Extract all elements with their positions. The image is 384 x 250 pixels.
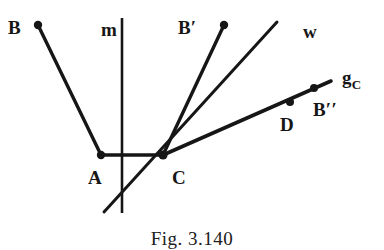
point-a-dot (97, 151, 105, 159)
label-c: C (172, 168, 186, 187)
label-g-c-subscript: C (352, 77, 362, 92)
label-m: m (101, 20, 117, 39)
point-c-dot (158, 150, 167, 159)
label-d: D (280, 115, 294, 134)
label-a: A (88, 168, 102, 187)
point-b-dot (34, 21, 42, 29)
point-b-prime-dot (220, 21, 228, 29)
label-b: B (8, 18, 21, 37)
label-b-double-prime: B′′ (313, 100, 337, 119)
point-d-dot (286, 98, 294, 106)
label-b-prime: B′ (178, 18, 196, 37)
label-g-c: gC (342, 68, 361, 91)
label-g-c-base: g (342, 67, 352, 88)
label-w: w (303, 22, 317, 41)
figure-caption: Fig. 3.140 (0, 228, 384, 250)
point-b-double-prime-dot (310, 84, 318, 92)
